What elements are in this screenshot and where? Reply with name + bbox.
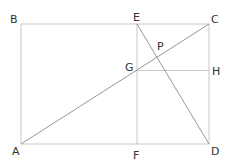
label-f: F (133, 149, 139, 162)
geometry-diagram: B E C P G H A F D (0, 0, 232, 167)
label-h: H (212, 65, 220, 78)
segment-ed (137, 24, 209, 144)
label-p: P (157, 40, 164, 53)
diagonal-ac (21, 24, 209, 144)
label-c: C (211, 13, 219, 26)
label-e: E (133, 11, 140, 24)
label-a: A (12, 145, 20, 158)
label-b: B (10, 13, 18, 26)
label-g: G (125, 61, 134, 74)
label-d: D (211, 145, 219, 158)
